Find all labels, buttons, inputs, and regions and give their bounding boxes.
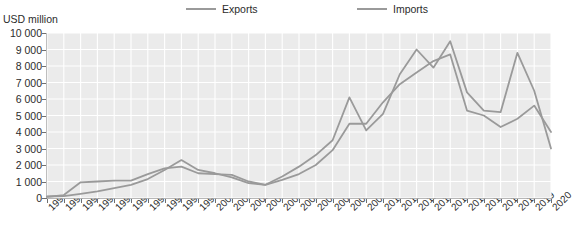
series-line-imports	[47, 54, 551, 196]
legend-item-imports: Imports	[357, 1, 428, 17]
plot-area	[47, 33, 551, 198]
legend-item-exports: Exports	[186, 1, 258, 17]
legend-label-exports: Exports	[222, 3, 258, 15]
y-tick-label: 0	[0, 192, 42, 204]
y-tick-label: 6 000	[0, 93, 42, 105]
y-tick-label: 2 000	[0, 159, 42, 171]
y-tick-label: 9 000	[0, 44, 42, 56]
y-tick-label: 3 000	[0, 143, 42, 155]
y-tick-label: 5 000	[0, 110, 42, 122]
y-tick-label: 10 000	[0, 27, 42, 39]
y-tick-label: 7 000	[0, 77, 42, 89]
y-tick-label: 8 000	[0, 60, 42, 72]
legend-swatch-imports	[357, 8, 387, 10]
x-tick-label: 2020	[550, 189, 574, 213]
legend-label-imports: Imports	[393, 3, 428, 15]
chart-legend: Exports Imports	[0, 0, 560, 20]
y-axis-title: USD million	[3, 13, 58, 25]
legend-swatch-exports	[186, 8, 216, 10]
y-tick-label: 1 000	[0, 176, 42, 188]
series-lines	[47, 33, 551, 198]
y-tick-label: 4 000	[0, 126, 42, 138]
